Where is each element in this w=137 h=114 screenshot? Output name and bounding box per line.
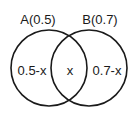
venn-diagram: A(0.5) B(0.7) 0.5-x x 0.7-x (0, 0, 137, 114)
intersection-region-label: x (67, 63, 74, 78)
set-b-only-region-label: 0.7-x (93, 63, 122, 78)
set-b-label: B(0.7) (82, 12, 117, 27)
set-a-only-region-label: 0.5-x (18, 63, 47, 78)
set-a-label: A(0.5) (20, 12, 55, 27)
